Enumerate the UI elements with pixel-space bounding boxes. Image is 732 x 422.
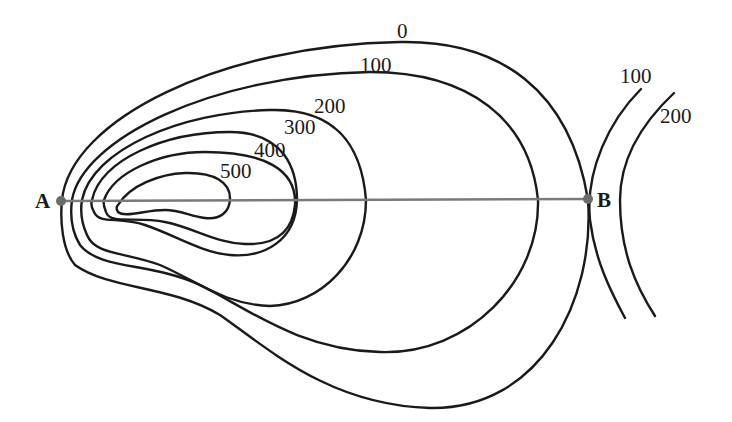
- contour-label-right-200: 200: [660, 104, 692, 128]
- point-b-marker: [583, 194, 593, 204]
- point-a-label: A: [35, 189, 51, 213]
- contour-label-right-100: 100: [620, 64, 652, 88]
- contour-diagram: A B 0 100 200 300 400 500 100 200: [0, 0, 732, 422]
- profile-line-a-b: [61, 199, 588, 201]
- contour-label-200: 200: [314, 94, 346, 118]
- contour-400: [104, 152, 295, 244]
- contour-200: [81, 110, 366, 306]
- contour-label-0: 0: [397, 19, 408, 43]
- point-a-marker: [56, 196, 66, 206]
- contour-label-100: 100: [360, 53, 392, 77]
- point-b-label: B: [597, 188, 611, 212]
- contour-label-500: 500: [220, 159, 252, 183]
- contour-label-300: 300: [284, 115, 316, 139]
- contour-500: [117, 173, 231, 218]
- contour-label-400: 400: [254, 138, 286, 162]
